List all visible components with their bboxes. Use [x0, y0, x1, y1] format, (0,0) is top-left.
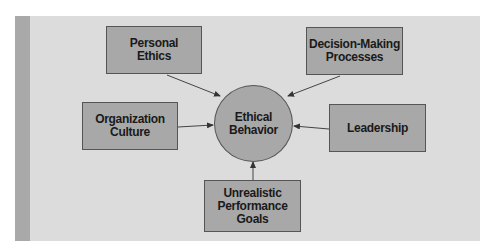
- arrow-leadership: [294, 126, 329, 129]
- node-label: Unrealistic Performance Goals: [217, 187, 287, 226]
- arrow-organization-culture: [178, 125, 213, 127]
- node-personal-ethics: Personal Ethics: [106, 26, 202, 74]
- node-label: Organization Culture: [95, 113, 165, 139]
- node-ethical-behavior: Ethical Behavior: [214, 85, 293, 162]
- node-leadership: Leadership: [329, 104, 426, 152]
- node-decision-making-processes: Decision-Making Processes: [306, 27, 403, 75]
- node-organization-culture: Organization Culture: [82, 102, 178, 150]
- arrow-decision-making: [288, 76, 340, 96]
- center-label: Ethical Behavior: [229, 111, 278, 137]
- arrow-personal-ethics: [167, 75, 220, 96]
- node-label: Leadership: [347, 122, 408, 135]
- node-label: Personal Ethics: [130, 37, 178, 63]
- diagram-canvas: Personal Ethics Decision-Making Processe…: [0, 0, 491, 251]
- node-unrealistic-performance-goals: Unrealistic Performance Goals: [204, 180, 301, 232]
- node-label: Decision-Making Processes: [309, 38, 400, 64]
